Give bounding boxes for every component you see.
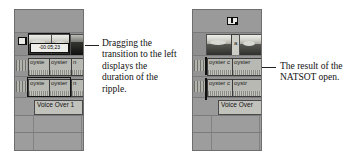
voiceover-clip-label: Voice Over: [221, 101, 253, 109]
audio-waveform: [233, 70, 261, 75]
track-divider: [193, 115, 261, 116]
voiceover-clip[interactable]: Voice Over 1: [34, 100, 83, 115]
audio-waveform-stub: [16, 60, 27, 71]
audio-selection-outline[interactable]: [27, 77, 71, 97]
caption-leader-line: [85, 45, 99, 46]
track-divider: [193, 132, 261, 133]
audio-waveform-stub: [194, 81, 205, 92]
voiceover-clip[interactable]: Voice Over: [218, 100, 262, 115]
audio-track-row[interactable]: oyster c oyster: [193, 56, 261, 76]
before-timeline-panel[interactable]: oyste oyster n oyste oyster n: [14, 9, 84, 151]
audio-clip[interactable]: oyste: [28, 58, 51, 76]
before-caption: Dragging the transition to the left disp…: [102, 38, 178, 95]
audio-waveform: [208, 91, 233, 96]
audio-waveform: [72, 91, 83, 96]
audio-clip-label: oyste: [30, 59, 44, 66]
audio-clip[interactable]: n: [71, 58, 84, 76]
audio-track-row[interactable]: oyste oyster n: [15, 56, 83, 76]
ripple-edit-cursor-icon: [17, 33, 30, 46]
video-clip-thumbnail[interactable]: [239, 34, 262, 56]
audio-waveform: [233, 91, 261, 96]
audio-clip-label: oystr: [234, 80, 247, 87]
audio-clip-label: oyster: [51, 59, 67, 66]
video-clip-thumbnail[interactable]: [206, 34, 233, 56]
audio-clip-label: oyster c: [209, 59, 230, 66]
after-timeline-panel[interactable]: a oyster c oyster oyster c oystr: [192, 9, 262, 151]
voiceover-track-row[interactable]: Voice Over 1: [15, 98, 83, 115]
caption-leader-line: [262, 67, 276, 68]
audio-waveform: [50, 70, 71, 75]
after-caption: The result of the NATSOT open.: [280, 61, 356, 84]
audio-track-row[interactable]: oyster c oystr: [193, 77, 261, 97]
audio-waveform: [72, 70, 83, 75]
voiceover-clip-label: Voice Over 1: [37, 101, 74, 109]
voiceover-track-row[interactable]: Voice Over: [193, 98, 261, 115]
track-divider: [15, 132, 83, 133]
audio-waveform: [208, 70, 233, 75]
audio-clip-label: oyster: [234, 59, 250, 66]
audio-track-row[interactable]: oyste oyster n: [15, 77, 83, 97]
tool-box: [227, 17, 238, 25]
transition-label: a: [234, 40, 237, 47]
thumbnail-highlight: [243, 41, 255, 46]
audio-clip[interactable]: oyster: [232, 58, 262, 76]
audio-waveform: [29, 70, 50, 75]
thumbnail-foreground: [71, 42, 83, 55]
audio-waveform-stub: [194, 60, 205, 71]
audio-clip[interactable]: oyster c: [207, 58, 234, 76]
video-clip-thumbnail[interactable]: [70, 34, 84, 56]
track-divider: [15, 115, 83, 116]
audio-clip[interactable]: oystr: [232, 79, 262, 97]
audio-clip-label: n: [73, 59, 76, 66]
audio-clip[interactable]: oyster c: [207, 79, 234, 97]
ripple-duration-tooltip: -00:05;23: [30, 43, 69, 53]
edit-point-marker: [205, 92, 207, 100]
audio-clip-label: n: [73, 80, 76, 87]
selection-tool-icon: [227, 15, 240, 27]
thumbnail-highlight: [210, 40, 226, 45]
audio-waveform-stub: [16, 81, 27, 92]
tool-stem: [231, 17, 233, 23]
audio-clip-label: oyster c: [209, 80, 230, 87]
timeline-ruler-band[interactable]: [15, 10, 83, 32]
thumbnail-foreground: [207, 44, 232, 55]
video-track-row[interactable]: a: [193, 33, 261, 55]
audio-clip[interactable]: oyster: [49, 58, 72, 76]
tool-tail: [235, 22, 238, 24]
audio-clip[interactable]: n: [71, 79, 84, 97]
cursor-stem: [25, 37, 27, 44]
